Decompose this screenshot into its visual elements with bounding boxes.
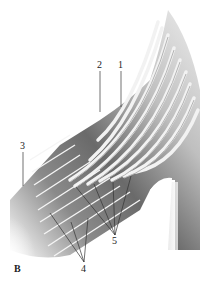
label-3: 3 — [20, 141, 25, 151]
label-1: 1 — [118, 60, 123, 70]
label-5: 5 — [112, 236, 117, 246]
panel-letter: B — [14, 264, 21, 274]
anatomical-diagram: 1 2 3 4 5 B — [0, 0, 213, 290]
label-4: 4 — [81, 264, 86, 274]
fiber-illustration — [0, 0, 213, 290]
label-2: 2 — [97, 60, 102, 70]
